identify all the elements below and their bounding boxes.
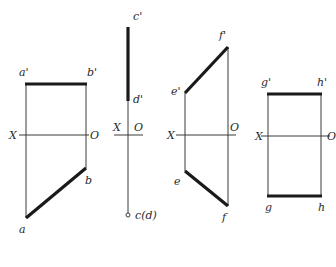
top-view-line-ab [26,168,86,218]
top-view-line-ef [185,171,228,206]
front-view-line-ef [185,47,228,93]
view-cd: X O c' d' c(d) [112,10,157,222]
label-b-prime: b' [87,66,97,79]
axis-label-o: O [327,130,336,143]
projection-diagram: X O a' b' a b X O c' d' c(d) X O e' f' e… [0,0,336,267]
label-f-prime: f' [218,29,226,42]
axis-label-x: X [166,129,176,142]
axis-label-x: X [8,129,18,142]
label-c-d: c(d) [135,209,157,222]
view-gh: X O g' h' g h [254,76,336,214]
view-ab: X O a' b' a b [8,66,99,236]
label-h-prime: h' [317,76,327,89]
label-e-prime: e' [171,85,181,98]
label-h: h [318,201,325,214]
view-ef: X O e' f' e f [166,29,239,224]
label-b: b [85,174,92,187]
axis-label-o: O [230,121,239,134]
label-e: e [174,175,181,188]
label-g: g [265,201,272,214]
axis-label-x: X [254,130,264,143]
axis-label-o: O [90,129,99,142]
label-a-prime: a' [19,66,29,79]
label-g-prime: g' [261,76,271,89]
label-d-prime: d' [133,93,143,106]
label-c-prime: c' [133,10,142,23]
label-f: f [221,211,228,224]
label-a: a [19,223,26,236]
top-view-point-cd [126,213,130,217]
axis-label-o: O [134,121,143,134]
axis-label-x: X [112,121,122,134]
